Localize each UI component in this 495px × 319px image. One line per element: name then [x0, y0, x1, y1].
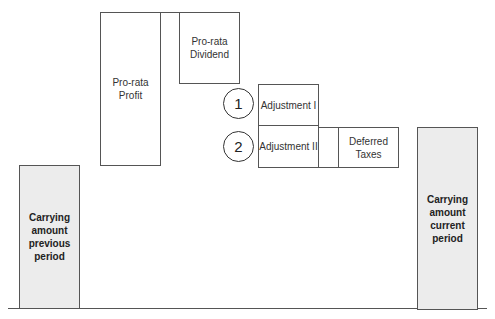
- carrying-previous-line4: period: [34, 250, 65, 263]
- carrying-previous-line2: amount: [31, 224, 67, 237]
- dividend-line1: Pro-rata: [191, 35, 227, 48]
- marker-1-label: 1: [234, 95, 242, 112]
- adjustment-2-label: Adjustment II: [259, 140, 317, 153]
- pro-rata-profit-label: Pro-rata Profit: [101, 76, 160, 102]
- carrying-current-line3: current: [430, 219, 464, 232]
- marker-2-label: 2: [234, 138, 242, 155]
- connector-top: [160, 12, 179, 13]
- dividend-line2: Dividend: [190, 48, 229, 61]
- carrying-current-line1: Carrying: [427, 193, 468, 206]
- adjustment-1-label: Adjustment I: [261, 99, 317, 112]
- deferred-line2: Taxes: [355, 148, 381, 161]
- carrying-amount-current-box: Carrying amount current period: [417, 127, 478, 310]
- pro-rata-profit-box: Pro-rata Profit: [100, 12, 161, 166]
- marker-2-circle: 2: [223, 131, 254, 162]
- marker-1-circle: 1: [223, 88, 254, 119]
- adjustment-1-box: Adjustment I: [258, 84, 319, 126]
- spacer-box: [318, 127, 339, 168]
- carrying-current-line4: period: [432, 232, 463, 245]
- carrying-previous-line3: previous: [29, 237, 71, 250]
- carrying-current-line2: amount: [429, 206, 465, 219]
- deferred-taxes-box: Deferred Taxes: [338, 127, 399, 168]
- pro-rata-dividend-box: Pro-rata Dividend: [179, 12, 240, 84]
- deferred-line1: Deferred: [349, 135, 388, 148]
- carrying-amount-previous-box: Carrying amount previous period: [19, 165, 80, 309]
- adjustment-2-box: Adjustment II: [258, 125, 319, 168]
- carrying-previous-line1: Carrying: [29, 211, 70, 224]
